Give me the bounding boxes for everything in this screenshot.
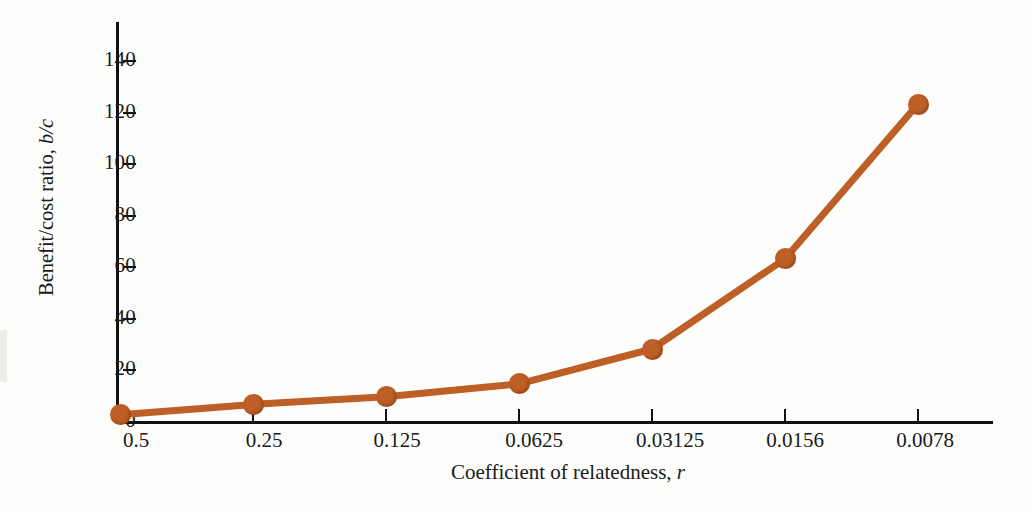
x-tick-mark-5 <box>651 409 653 422</box>
x-tick-mark-6 <box>784 409 786 422</box>
x-tick-label-5: 0.03125 <box>636 428 704 452</box>
x-tick-label-1: 0.5 <box>123 428 149 452</box>
figure-panel: 0 20 40 60 80 100 120 140 <box>0 0 1033 512</box>
data-point-marker <box>509 373 530 394</box>
data-point-marker <box>376 386 397 407</box>
x-tick-label-4: 0.0625 <box>505 428 563 452</box>
y-tick-label-40: 40 <box>88 307 136 328</box>
data-point-marker <box>775 248 796 269</box>
x-tick-label-6: 0.0156 <box>766 428 824 452</box>
x-tick-mark-3 <box>385 409 387 422</box>
y-tick-label-80: 80 <box>88 204 136 225</box>
data-point-marker <box>110 404 131 425</box>
y-tick-label-120: 120 <box>88 101 136 122</box>
data-point-marker <box>642 339 663 360</box>
y-axis-title-text: Benefit/cost ratio, <box>35 144 57 296</box>
data-point-marker <box>243 394 264 415</box>
x-axis-title: Coefficient of relatedness, r <box>288 460 848 485</box>
x-tick-mark-7 <box>917 409 919 422</box>
x-tick-label-3: 0.125 <box>373 428 420 452</box>
data-point-marker <box>908 94 929 115</box>
y-tick-label-60: 60 <box>88 255 136 276</box>
x-tick-mark-4 <box>518 409 520 422</box>
x-axis-line <box>116 421 993 424</box>
x-axis-title-text: Coefficient of relatedness, <box>451 460 677 484</box>
y-axis-title-symbol: b/c <box>35 119 57 144</box>
chart-plot-area: 0 20 40 60 80 100 120 140 <box>0 0 1033 512</box>
x-tick-label-2: 0.25 <box>246 428 283 452</box>
x-axis-title-symbol: r <box>677 460 685 484</box>
y-tick-label-140: 140 <box>88 49 136 70</box>
y-tick-label-100: 100 <box>88 152 136 173</box>
x-tick-label-7: 0.0078 <box>896 428 954 452</box>
y-axis-title: Benefit/cost ratio, b/c <box>35 58 58 358</box>
y-tick-label-20: 20 <box>88 358 136 379</box>
